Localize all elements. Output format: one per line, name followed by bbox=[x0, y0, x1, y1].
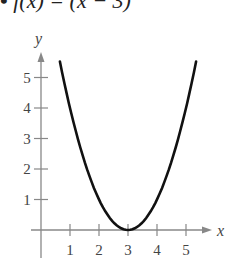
x-axis-label: x bbox=[216, 222, 224, 239]
x-tick-label: 3 bbox=[124, 242, 132, 258]
x-tick-label: 5 bbox=[182, 242, 190, 258]
parabola-curve bbox=[60, 62, 196, 230]
x-axis-arrow-icon bbox=[202, 227, 212, 234]
y-tick-label: 1 bbox=[23, 192, 31, 208]
x-tick-label: 4 bbox=[153, 242, 161, 258]
x-tick-label: 2 bbox=[95, 242, 103, 258]
x-tick-label: 1 bbox=[66, 242, 74, 258]
parabola-chart: 1234512345 x y bbox=[0, 0, 245, 274]
y-tick-label: 5 bbox=[23, 70, 31, 86]
y-tick-label: 3 bbox=[23, 131, 31, 147]
y-tick-label: 4 bbox=[23, 100, 31, 116]
y-axis-label: y bbox=[33, 30, 43, 48]
y-tick-label: 2 bbox=[23, 161, 31, 177]
ticks bbox=[34, 78, 186, 237]
y-axis-arrow-icon bbox=[38, 52, 45, 62]
